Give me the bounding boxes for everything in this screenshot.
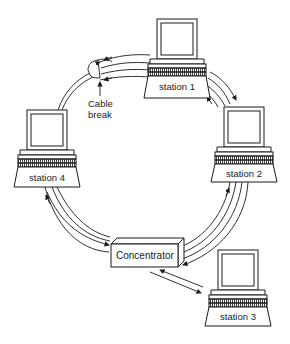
cable-concentrator-station3 [150, 270, 203, 293]
cable-break-label-line1: Cable [88, 98, 113, 109]
cable-break-label-line2: break [88, 109, 112, 120]
station-1-label: station 1 [147, 81, 207, 92]
station-2-label: station 2 [214, 168, 274, 179]
cable-station4-concentrator [45, 187, 110, 252]
concentrator-label: Concentrator [116, 250, 174, 261]
station-4-label: station 4 [17, 172, 77, 183]
station-3-label: station 3 [208, 311, 268, 322]
cable-break-station1 [100, 55, 150, 80]
